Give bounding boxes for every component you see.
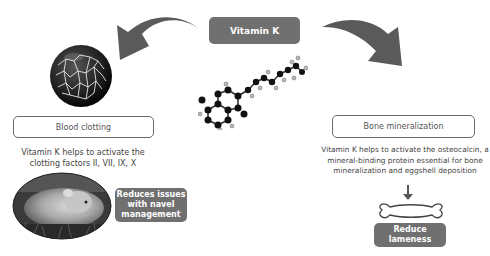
navel-outcome-line2: with navel: [117, 200, 186, 210]
vitamin-k-molecule-icon: [198, 52, 308, 130]
reduce-lameness-badge: Reduce lameness: [374, 223, 446, 247]
lameness-outcome-line2: lameness: [389, 235, 432, 245]
reduces-navel-issues-badge: Reduces issues with navel management: [115, 188, 187, 222]
blood-clotting-desc-line1: Vitamin K helps to activate the: [0, 148, 166, 159]
blood-clotting-heading: Blood clotting: [13, 116, 154, 138]
blood-clot-fibrin-icon: [48, 43, 114, 109]
curved-arrow-left-icon: [112, 8, 202, 68]
blood-clotting-description: Vitamin K helps to activate the clotting…: [0, 148, 166, 169]
bone-mineralization-heading: Bone mineralization: [332, 115, 475, 138]
bone-desc-line3: mineralization and eggshell deposition: [320, 166, 490, 177]
vitamin-k-title: Vitamin K: [209, 17, 300, 44]
lameness-outcome-line1: Reduce: [389, 225, 432, 235]
curved-arrow-right-icon: [318, 10, 408, 72]
vitamin-k-label: Vitamin K: [230, 26, 279, 36]
piglet-photo: [12, 172, 112, 240]
bone-icon: [378, 199, 444, 223]
navel-outcome-line1: Reduces issues: [117, 190, 186, 200]
bone-desc-line2: mineral-binding protein essential for bo…: [320, 156, 490, 167]
bone-mineralization-label: Bone mineralization: [364, 122, 444, 131]
blood-clotting-label: Blood clotting: [56, 123, 111, 132]
bone-desc-line1: Vitamin K helps to activate the osteocal…: [320, 145, 490, 156]
blood-clotting-desc-line2: clotting factors II, VII, IX, X: [0, 159, 166, 170]
navel-outcome-line3: management: [117, 210, 186, 220]
bone-mineralization-description: Vitamin K helps to activate the osteocal…: [320, 145, 490, 177]
